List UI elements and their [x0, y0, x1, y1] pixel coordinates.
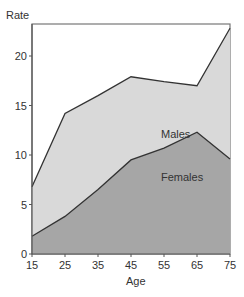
- males-label: Males: [161, 128, 191, 140]
- x-tick-label: 25: [59, 259, 71, 271]
- x-tick-label: 65: [191, 259, 203, 271]
- x-tick-label: 45: [125, 259, 137, 271]
- y-tick-label: 0: [21, 248, 27, 260]
- y-tick-label: 10: [15, 149, 27, 161]
- x-axis-label: Age: [126, 275, 146, 287]
- females-label: Females: [161, 171, 204, 183]
- x-tick-label: 15: [26, 259, 38, 271]
- y-tick-label: 15: [15, 100, 27, 112]
- y-ticks: 05101520: [15, 50, 32, 260]
- x-ticks: 15253545556575: [26, 254, 236, 271]
- y-axis-label: Rate: [6, 9, 29, 21]
- area-chart: 15253545556575 05101520 Rate Age Males F…: [0, 0, 244, 297]
- y-tick-label: 20: [15, 50, 27, 62]
- x-tick-label: 75: [224, 259, 236, 271]
- x-tick-label: 55: [158, 259, 170, 271]
- x-tick-label: 35: [92, 259, 104, 271]
- y-tick-label: 5: [21, 199, 27, 211]
